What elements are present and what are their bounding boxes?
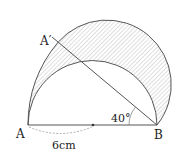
label-A-prime: A′ bbox=[39, 34, 52, 48]
label-B: B bbox=[154, 128, 163, 142]
label-length: 6cm bbox=[52, 139, 76, 152]
label-A: A bbox=[15, 127, 25, 141]
geometry-figure: A B A′ 40° 6cm bbox=[0, 0, 183, 157]
length-brace bbox=[29, 127, 92, 134]
midpoint-dot bbox=[92, 124, 95, 127]
label-angle: 40° bbox=[111, 112, 131, 125]
